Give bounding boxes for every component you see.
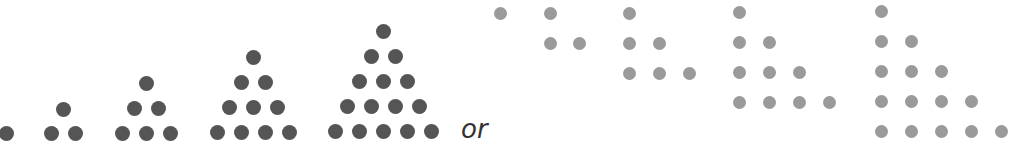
equilateral-dot: [234, 75, 249, 90]
right-triangle-dot: [905, 35, 918, 48]
right-triangle-dot: [623, 7, 636, 20]
equilateral-dot: [210, 125, 225, 140]
triangular-numbers-figure: [0, 0, 1022, 158]
right-triangle-dot: [793, 96, 806, 109]
equilateral-dot: [163, 126, 178, 141]
right-triangle-dot: [763, 96, 776, 109]
right-triangle-dot: [623, 37, 636, 50]
equilateral-dot: [246, 50, 261, 65]
right-triangle-dot: [653, 67, 666, 80]
right-triangle-dot: [793, 66, 806, 79]
right-triangle-dot: [733, 6, 746, 19]
right-triangle-dot: [653, 37, 666, 50]
equilateral-dot: [127, 101, 142, 116]
equilateral-dot: [258, 125, 273, 140]
right-triangle-dot: [875, 65, 888, 78]
equilateral-dot: [44, 126, 59, 141]
right-triangle-dot: [875, 5, 888, 18]
right-triangle-dot: [875, 95, 888, 108]
equilateral-dot: [340, 99, 355, 114]
equilateral-dot: [412, 99, 427, 114]
right-triangle-dot: [544, 37, 557, 50]
right-triangle-dot: [733, 96, 746, 109]
equilateral-dot: [400, 74, 415, 89]
right-triangle-dot: [905, 65, 918, 78]
right-triangle-dot: [623, 67, 636, 80]
right-triangle-dot: [573, 37, 586, 50]
equilateral-dot: [352, 124, 367, 139]
right-triangle-dot: [763, 36, 776, 49]
equilateral-dot: [400, 124, 415, 139]
right-triangle-dot: [733, 66, 746, 79]
equilateral-dot: [56, 102, 71, 117]
equilateral-dot: [328, 124, 343, 139]
equilateral-dot: [424, 124, 439, 139]
right-triangle-dot: [494, 7, 507, 20]
equilateral-dot: [234, 125, 249, 140]
equilateral-dot: [139, 76, 154, 91]
equilateral-dot: [376, 74, 391, 89]
right-triangle-dot: [995, 125, 1008, 138]
equilateral-dot: [246, 100, 261, 115]
equilateral-dot: [139, 126, 154, 141]
or-connector-text: or: [461, 114, 488, 144]
right-triangle-dot: [935, 95, 948, 108]
equilateral-dot: [258, 75, 273, 90]
equilateral-dot: [0, 126, 14, 141]
right-triangle-dot: [905, 125, 918, 138]
equilateral-dot: [364, 49, 379, 64]
right-triangle-dot: [965, 125, 978, 138]
right-triangle-dot: [875, 125, 888, 138]
right-triangle-dot: [823, 96, 836, 109]
equilateral-dot: [388, 99, 403, 114]
equilateral-dot: [364, 99, 379, 114]
right-triangle-dot: [935, 65, 948, 78]
equilateral-dot: [282, 125, 297, 140]
right-triangle-dot: [733, 36, 746, 49]
equilateral-dot: [352, 74, 367, 89]
equilateral-dot: [376, 124, 391, 139]
equilateral-dot: [376, 24, 391, 39]
right-triangle-dot: [965, 95, 978, 108]
equilateral-dot: [388, 49, 403, 64]
equilateral-dot: [222, 100, 237, 115]
right-triangle-dot: [905, 95, 918, 108]
equilateral-dot: [151, 101, 166, 116]
right-triangle-dot: [544, 7, 557, 20]
right-triangle-dot: [875, 35, 888, 48]
equilateral-dot: [68, 126, 83, 141]
equilateral-dot: [115, 126, 130, 141]
right-triangle-dot: [763, 66, 776, 79]
equilateral-dot: [270, 100, 285, 115]
right-triangle-dot: [935, 125, 948, 138]
right-triangle-dot: [683, 67, 696, 80]
